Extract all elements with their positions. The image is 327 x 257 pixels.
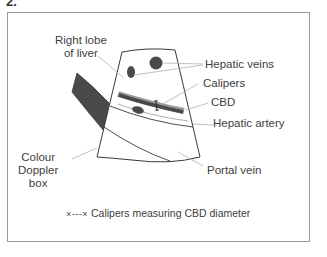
legend: ×---×Calipers measuring CBD diameter [66,207,250,219]
label-right-lobe-line1: Right lobe [55,34,107,47]
colour-doppler-box [72,73,109,131]
label-calipers: Calipers [203,77,245,90]
label-cbd: CBD [211,96,235,109]
hepatic-vein-small [127,66,135,78]
label-colour-doppler-line3: box [18,177,58,190]
label-hepatic-artery: Hepatic artery [213,117,285,130]
label-right-lobe: Right lobe of liver [55,34,107,60]
label-portal-vein: Portal vein [207,164,261,177]
legend-text: Calipers measuring CBD diameter [91,207,250,219]
hepatic-vein-large [150,57,163,70]
label-colour-doppler-line2: Doppler [18,164,58,177]
label-colour-doppler: Colour Doppler box [18,151,58,190]
label-right-lobe-line2: of liver [55,47,107,60]
label-colour-doppler-line1: Colour [18,151,58,164]
caliper-legend-icon: ×---× [66,209,88,219]
label-hepatic-veins: Hepatic veins [205,58,274,71]
